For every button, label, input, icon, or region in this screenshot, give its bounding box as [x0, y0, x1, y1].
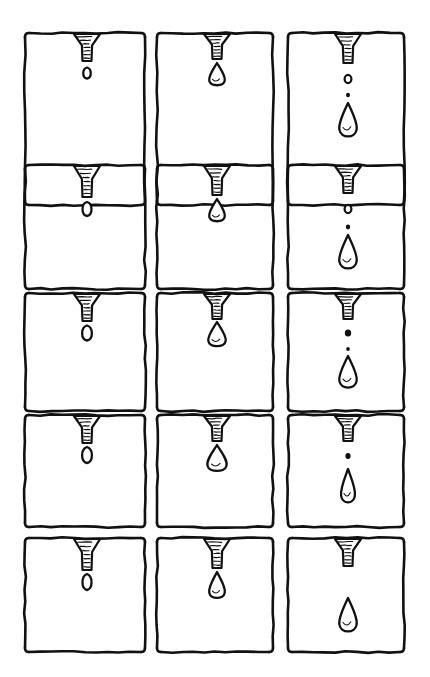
panel-r5c2	[156, 537, 273, 653]
panel-r2c2	[156, 164, 274, 289]
panel-r2c3	[287, 164, 404, 289]
panel-r5c3	[287, 537, 404, 653]
storyboard-sheet	[0, 0, 430, 677]
panel-r5c1	[24, 537, 145, 652]
panel-r3c2	[156, 292, 273, 412]
panel-r1c2	[156, 33, 274, 206]
panel-r4c2	[157, 414, 274, 528]
panel-r3c1	[24, 292, 146, 411]
panel-grid	[0, 0, 430, 677]
panel-r2c1	[24, 165, 146, 290]
panel-r4c1	[24, 414, 146, 527]
panel-r1c1	[24, 32, 145, 206]
panel-r4c3	[287, 414, 404, 528]
panel-r3c3	[287, 292, 404, 411]
